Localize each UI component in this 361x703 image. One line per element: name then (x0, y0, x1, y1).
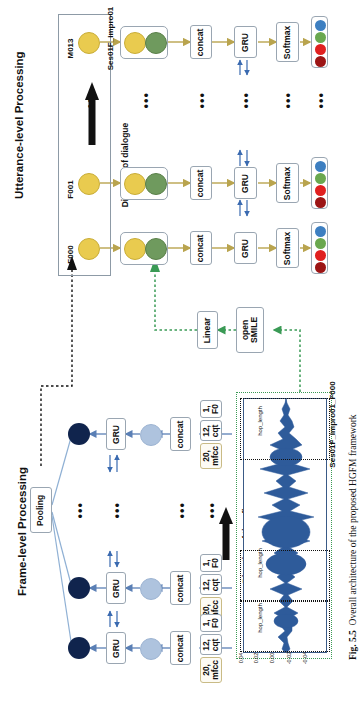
frame-feature-node-3 (140, 638, 162, 660)
frame-feature-node-2 (140, 578, 162, 600)
ellipsis-utterance-pairs: ••• (138, 95, 152, 108)
caption-text: Overall architecture of the proposed HGF… (348, 414, 358, 625)
ellipsis-frame-features: ••• (204, 505, 218, 518)
output-dot-0 (315, 161, 326, 172)
waveform-ytick-4: -0.04 (292, 655, 318, 661)
direction-of-time-flow-arrow (219, 507, 233, 560)
output-dot-2 (315, 185, 326, 196)
pair-node-green-m013 (145, 32, 167, 54)
feature-box-mfcc-3: 20,mfcc (200, 657, 222, 683)
frame-feature-node-1 (140, 424, 162, 446)
gru-box-m013: GRU (234, 26, 257, 58)
output-box-f000 (311, 222, 328, 274)
ellipsis-softmax: ••• (280, 95, 294, 108)
linear-box: Linear (197, 311, 218, 349)
opensmile-box: open SMILE (236, 307, 264, 353)
frame-concat-box-3: concat (170, 631, 191, 665)
feature-box-f0-1: 1,F0 (200, 400, 222, 418)
pair-node-yellow-f000 (124, 238, 146, 260)
pair-node-yellow-m013 (124, 32, 146, 54)
caption-number: Fig. 5.5 (348, 630, 358, 660)
output-dot-0 (315, 226, 326, 237)
waveform-segment-1 (240, 398, 330, 460)
output-dot-1 (315, 173, 326, 184)
frame-pooled-node-2 (68, 577, 90, 599)
feature-box-mfcc-1: 20,mfcc (200, 443, 222, 469)
frame-gru-box-1: GRU (106, 418, 126, 450)
pair-node-green-f001 (145, 173, 167, 195)
output-dot-0 (315, 20, 326, 31)
frame-concat-box-1: concat (170, 417, 191, 451)
pair-node-green-f000 (145, 238, 167, 260)
feature-box-f0-2: 1,F0 (200, 554, 222, 572)
feature-box-cqt-1: 12,cqt (200, 420, 222, 441)
ellipsis-frame-concat: ••• (174, 505, 188, 518)
output-dot-1 (315, 32, 326, 43)
output-dot-3 (315, 56, 326, 67)
output-box-m013 (311, 16, 328, 68)
ellipsis-output: ••• (313, 95, 327, 108)
figure-canvas: Utterance-level Processing Frame-level P… (0, 0, 361, 703)
feature-box-f0-3: 1,F0 (200, 614, 222, 632)
opensmile-path (150, 258, 300, 392)
output-dot-2 (315, 250, 326, 261)
ellipsis-frame-pooled: ••• (72, 505, 86, 518)
figure-caption: Fig. 5.5 Overall architecture of the pro… (238, 540, 361, 550)
output-dot-1 (315, 238, 326, 249)
utterance-node-f000 (78, 238, 100, 260)
concat-box-f001: concat (190, 166, 212, 200)
frame-gru-box-2: GRU (106, 572, 126, 604)
pooling-box: Pooling (30, 487, 52, 533)
frame-gru-box-3: GRU (106, 632, 126, 664)
frame-pooled-node-1 (68, 423, 90, 445)
waveform-segment-2 (240, 550, 330, 602)
hop-length-label-2: hop_length (234, 560, 286, 566)
hop-length-label-3: hop_length (234, 615, 286, 621)
utterance-node-m013 (78, 32, 100, 54)
feature-box-cqt-2: 12,cqt (200, 574, 222, 595)
ellipsis-utterance-nodes: ••• (82, 95, 96, 108)
softmax-box-m013: Softmax (276, 22, 299, 62)
concat-box-m013: concat (190, 25, 212, 59)
feature-box-cqt-3: 12,cqt (200, 634, 222, 655)
frame-concat-box-2: concat (170, 571, 191, 605)
output-dot-2 (315, 44, 326, 55)
ellipsis-concat: ••• (194, 95, 208, 108)
frame-pooled-node-3 (68, 637, 90, 659)
ellipsis-gru: ••• (238, 95, 252, 108)
gru-box-f000: GRU (234, 232, 257, 264)
pair-node-yellow-f001 (124, 173, 146, 195)
utterance-node-f001 (78, 173, 100, 195)
gru-box-f001: GRU (234, 167, 257, 199)
output-dot-3 (315, 262, 326, 273)
output-box-f001 (311, 157, 328, 209)
softmax-box-f001: Softmax (276, 163, 299, 203)
opensmile-label-line2: SMILE (249, 317, 259, 343)
concat-box-f000: concat (190, 231, 212, 265)
output-dot-3 (315, 197, 326, 208)
softmax-box-f000: Softmax (276, 228, 299, 268)
ellipsis-frame-gru: ••• (109, 505, 123, 518)
